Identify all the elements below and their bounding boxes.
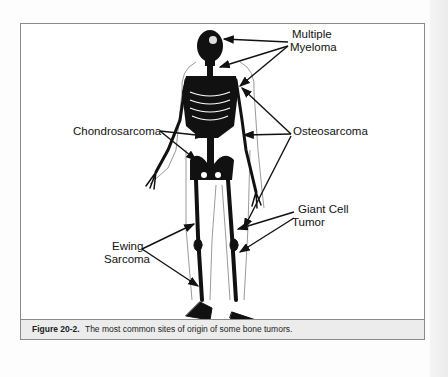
label-ewing-line1: Ewing bbox=[112, 240, 143, 253]
label-ewing-line2: Sarcoma bbox=[104, 253, 150, 266]
skull bbox=[197, 30, 223, 66]
legs bbox=[186, 180, 262, 324]
label-multiple-myeloma-line1: Multiple bbox=[292, 28, 332, 41]
caption-text: The most common sites of origin of some … bbox=[85, 324, 292, 334]
caption-figure-number: Figure 20-2. bbox=[32, 324, 80, 334]
figure-caption: Figure 20-2. The most common sites of or… bbox=[20, 319, 425, 340]
label-osteosarcoma: Osteosarcoma bbox=[293, 125, 368, 138]
label-giant-cell-line1: Giant Cell bbox=[298, 203, 349, 216]
label-giant-cell-line2: Tumor bbox=[292, 216, 325, 229]
label-multiple-myeloma-line2: Myeloma bbox=[290, 41, 337, 54]
label-chondrosarcoma: Chondrosarcoma bbox=[73, 125, 161, 138]
torso bbox=[182, 64, 238, 180]
